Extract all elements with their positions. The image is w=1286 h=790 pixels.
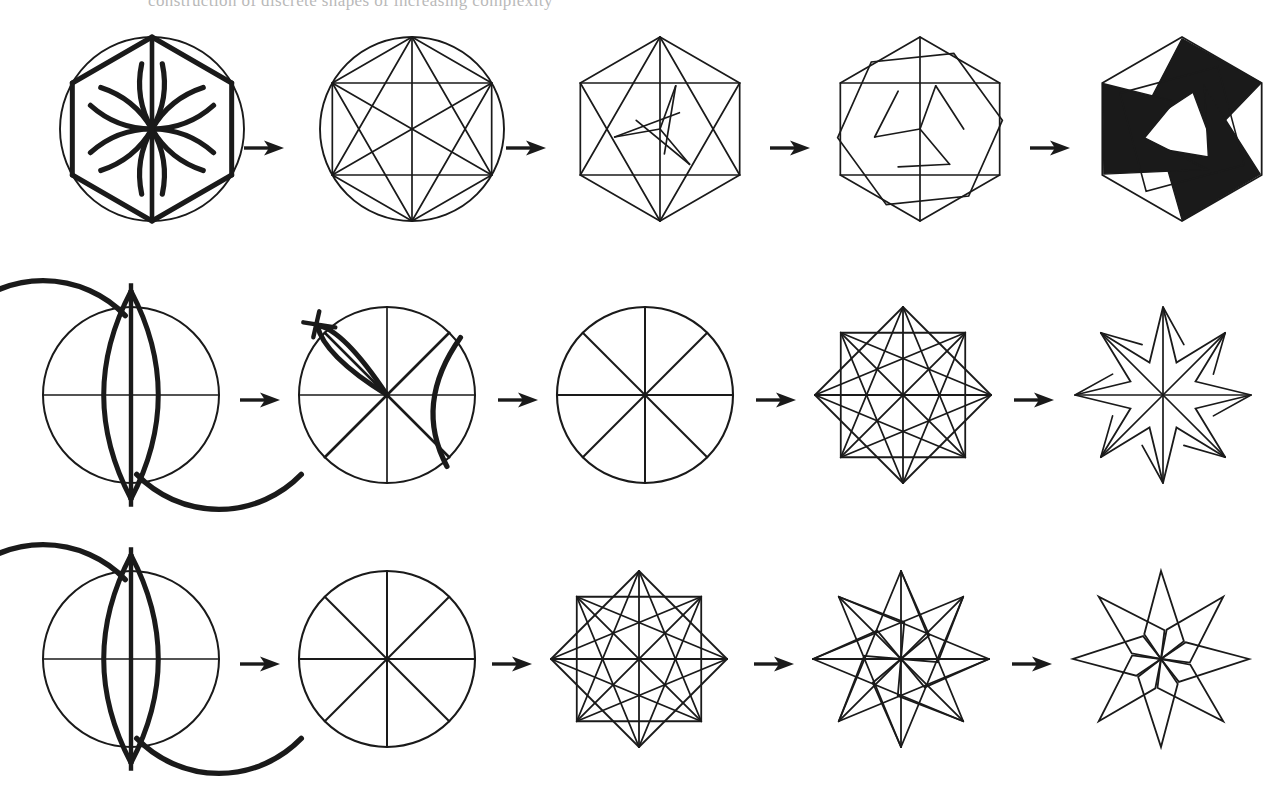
figure-r3s5 bbox=[1056, 552, 1271, 777]
figure-r2s5 bbox=[1058, 288, 1273, 513]
step-arrow bbox=[492, 652, 532, 676]
step-arrow bbox=[240, 652, 280, 676]
construction-row-compass-rose bbox=[0, 288, 1286, 518]
step-arrow bbox=[506, 136, 546, 160]
figure-r2s1 bbox=[26, 288, 241, 513]
figure-r1s5 bbox=[1082, 24, 1286, 249]
figure-r1s4 bbox=[820, 24, 1025, 249]
figure-r1s2 bbox=[288, 24, 503, 249]
step-arrow bbox=[754, 652, 794, 676]
diagram-page: construction of discrete shapes of incre… bbox=[0, 0, 1286, 790]
figure-r2s4 bbox=[798, 288, 1013, 513]
figure-r2s2 bbox=[282, 288, 497, 513]
step-arrow bbox=[1012, 652, 1052, 676]
step-arrow bbox=[756, 388, 796, 412]
construction-row-hexagon bbox=[0, 24, 1286, 254]
partial-caption-text: construction of discrete shapes of incre… bbox=[148, 0, 848, 11]
step-arrow bbox=[1014, 388, 1054, 412]
step-arrow bbox=[244, 136, 284, 160]
figure-r1s3 bbox=[560, 24, 765, 249]
construction-row-pinwheel-star bbox=[0, 552, 1286, 782]
figure-r3s3 bbox=[534, 552, 749, 777]
step-arrow bbox=[240, 388, 280, 412]
figure-r3s4 bbox=[796, 552, 1011, 777]
step-arrow bbox=[1030, 136, 1070, 160]
figure-r3s2 bbox=[282, 552, 497, 777]
figure-r2s3 bbox=[540, 288, 755, 513]
step-arrow bbox=[498, 388, 538, 412]
step-arrow bbox=[770, 136, 810, 160]
figure-r3s1 bbox=[26, 552, 241, 777]
figure-r1s1 bbox=[28, 24, 243, 249]
